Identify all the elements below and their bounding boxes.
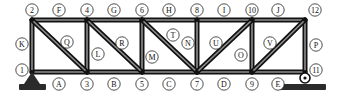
member-label-K-text: K: [19, 40, 25, 49]
member-label-L-text: L: [96, 50, 101, 59]
member-label-V-text: V: [267, 39, 273, 48]
joint-10[interactable]: [250, 18, 254, 22]
member-label-P-text: P: [314, 41, 319, 50]
joint-label-8-text: 8: [195, 6, 199, 15]
member-label-E: E: [272, 78, 284, 90]
member-label-U-text: U: [213, 39, 219, 48]
joint-label-11: 11: [310, 64, 322, 76]
member-label-B: B: [108, 78, 120, 90]
joint-label-12: 12: [309, 4, 321, 16]
member-label-D-text: D: [221, 80, 227, 89]
member-label-M-text: M: [148, 53, 155, 62]
member-Q[interactable]: [32, 20, 87, 72]
joint-label-8: 8: [191, 4, 203, 16]
joint-label-4-text: 4: [85, 6, 89, 15]
joint-label-9: 9: [246, 78, 258, 90]
member-label-J-text: J: [276, 6, 279, 15]
member-label-K: K: [16, 38, 28, 50]
member-label-H: H: [163, 4, 175, 16]
member-label-E-text: E: [276, 80, 281, 89]
member-label-J: J: [272, 4, 284, 16]
member-U[interactable]: [197, 20, 252, 72]
joint-label-6-text: 6: [140, 6, 144, 15]
joint-label-10: 10: [246, 4, 258, 16]
joint-label-1-text: 1: [20, 66, 24, 75]
joint-8[interactable]: [195, 18, 199, 22]
member-label-I: I: [218, 4, 230, 16]
member-label-C: C: [163, 78, 175, 90]
joint-9[interactable]: [250, 70, 254, 74]
joint-12[interactable]: [303, 18, 307, 22]
member-label-I-text: I: [223, 6, 226, 15]
joint-5[interactable]: [140, 70, 144, 74]
members-layer: [32, 20, 305, 72]
member-label-B-text: B: [111, 80, 116, 89]
member-label-N: N: [182, 37, 194, 49]
joint-label-6: 6: [136, 4, 148, 16]
member-label-A-text: A: [56, 80, 62, 89]
joint-6[interactable]: [140, 18, 144, 22]
member-label-O: O: [235, 49, 247, 61]
joint-label-5: 5: [136, 78, 148, 90]
pin-base-icon: [19, 84, 46, 90]
joint-label-1: 1: [16, 64, 28, 76]
member-V[interactable]: [252, 20, 305, 72]
joint-label-2: 2: [26, 4, 38, 16]
joint-label-3: 3: [81, 78, 93, 90]
member-label-R-text: R: [119, 39, 125, 48]
member-label-V: V: [264, 37, 276, 49]
member-label-H-text: H: [166, 6, 172, 15]
joint-4[interactable]: [85, 18, 89, 22]
member-label-P: P: [310, 39, 322, 51]
member-label-Q-text: Q: [64, 38, 70, 47]
member-label-T: T: [167, 29, 179, 41]
joint-2[interactable]: [30, 18, 34, 22]
joint-label-11-text: 11: [312, 66, 320, 75]
member-label-A: A: [53, 78, 65, 90]
joint-label-10-text: 10: [248, 6, 256, 15]
member-label-C-text: C: [166, 80, 171, 89]
member-label-D: D: [218, 78, 230, 90]
member-label-F: F: [53, 4, 65, 16]
joint-label-5-text: 5: [140, 80, 144, 89]
member-label-G-text: G: [111, 6, 117, 15]
joint-label-4: 4: [81, 4, 93, 16]
member-label-M: M: [146, 51, 158, 63]
roller-hub-icon: [303, 76, 306, 79]
joint-7[interactable]: [195, 70, 199, 74]
joint-label-7-text: 7: [195, 80, 199, 89]
joint-label-9-text: 9: [250, 80, 254, 89]
member-label-L: L: [92, 48, 104, 60]
joint-label-7: 7: [191, 78, 203, 90]
joint-3[interactable]: [85, 70, 89, 74]
truss-diagram: 2 4 6 8 10 12: [0, 0, 337, 100]
joint-label-12-text: 12: [311, 6, 319, 15]
member-label-Q: Q: [61, 36, 73, 48]
member-label-F-text: F: [57, 6, 62, 15]
member-label-O-text: O: [238, 51, 244, 60]
member-R[interactable]: [87, 20, 142, 72]
joint-label-3-text: 3: [85, 80, 89, 89]
member-label-R: R: [116, 37, 128, 49]
member-label-U: U: [210, 37, 222, 49]
roller-base-icon: [278, 84, 326, 90]
member-label-T-text: T: [171, 31, 176, 40]
truss-canvas: 2 4 6 8 10 12: [0, 0, 337, 100]
joint-label-2-text: 2: [30, 6, 34, 15]
member-label-N-text: N: [185, 39, 191, 48]
member-label-G: G: [108, 4, 120, 16]
